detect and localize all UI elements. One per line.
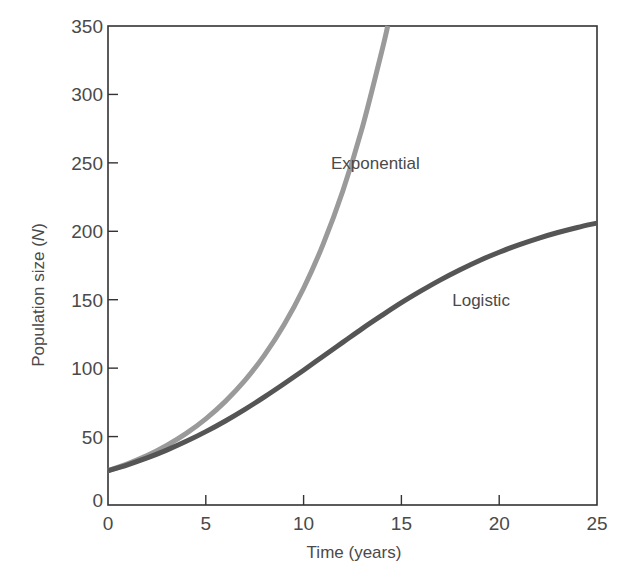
y-tick-label: 150: [71, 290, 103, 311]
y-tick-label: 350: [71, 16, 103, 37]
y-axis-title: Population size (N): [29, 223, 48, 367]
population-growth-chart: 050100150200250300350 0510152025 Exponen…: [0, 0, 619, 586]
exponential-curve: [108, 26, 388, 471]
y-tick-label: 0: [92, 490, 103, 511]
series-layer: [108, 26, 597, 471]
y-tick-label: 100: [71, 358, 103, 379]
y-tick-label: 200: [71, 221, 103, 242]
logistic-label: Logistic: [452, 291, 510, 310]
y-axis-title-prefix: Population size (: [29, 241, 48, 367]
y-tick-label: 50: [82, 427, 103, 448]
x-axis-ticks: 0510152025: [103, 495, 608, 534]
x-tick-label: 20: [489, 513, 510, 534]
x-tick-label: 10: [293, 513, 314, 534]
x-tick-label: 15: [391, 513, 412, 534]
x-tick-label: 0: [103, 513, 114, 534]
exponential-label: Exponential: [331, 154, 420, 173]
x-tick-label: 25: [586, 513, 607, 534]
plot-frame: [108, 26, 597, 505]
y-axis-title-suffix: ): [29, 223, 48, 229]
x-axis-title: Time (years): [307, 543, 402, 562]
plot-border: [108, 26, 597, 505]
y-tick-label: 300: [71, 84, 103, 105]
x-tick-label: 5: [201, 513, 212, 534]
y-axis-ticks: 050100150200250300350: [71, 16, 118, 511]
series-labels: ExponentialLogistic: [331, 154, 510, 310]
y-tick-label: 250: [71, 153, 103, 174]
logistic-curve: [108, 223, 597, 471]
y-axis-title-variable: N: [29, 228, 48, 241]
